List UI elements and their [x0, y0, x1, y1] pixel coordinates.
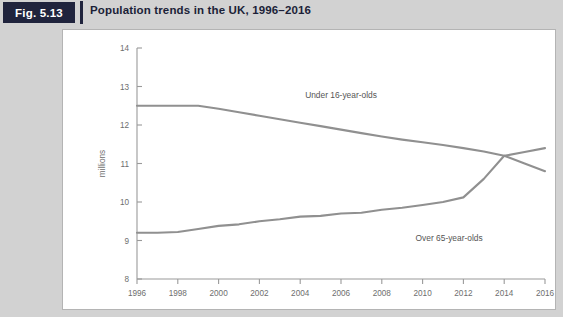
x-axis-tick-label: 2012 — [454, 289, 473, 298]
chart-series-group — [137, 106, 545, 233]
figure-header: Fig. 5.13 Population trends in the UK, 1… — [0, 0, 563, 26]
series-line — [137, 106, 545, 171]
x-axis-tick-label: 1998 — [169, 289, 188, 298]
x-axis-tick-label: 2014 — [495, 289, 514, 298]
x-axis-tick-label: 2010 — [413, 289, 432, 298]
page-title: Population trends in the UK, 1996–2016 — [90, 4, 311, 16]
x-axis-tick-label: 2002 — [250, 289, 269, 298]
y-axis-tick-label: 12 — [120, 121, 130, 130]
y-axis-title: millions — [98, 150, 107, 177]
y-axis-tick-label: 10 — [120, 198, 130, 207]
y-axis-tick-label: 14 — [120, 44, 130, 53]
series-line — [137, 148, 545, 233]
chart-panel: 891011121314millions 1996199820002002200… — [62, 29, 556, 310]
x-axis: 1996199820002002200420062008201020122014… — [128, 279, 555, 298]
x-axis-tick-label: 2004 — [291, 289, 310, 298]
y-axis-tick-label: 11 — [121, 160, 130, 169]
title-divider-rule — [80, 1, 83, 24]
line-chart: 891011121314millions 1996199820002002200… — [63, 30, 555, 309]
x-axis-tick-label: 1996 — [128, 289, 147, 298]
y-axis: 891011121314millions — [98, 44, 142, 284]
y-axis-tick-label: 9 — [124, 237, 129, 246]
y-axis-tick-label: 8 — [124, 275, 129, 284]
x-axis-tick-label: 2000 — [209, 289, 228, 298]
x-axis-tick-label: 2016 — [536, 289, 555, 298]
series-annotation-label: Over 65-year-olds — [416, 233, 483, 243]
chart-annotations: Under 16-year-oldsOver 65-year-olds — [305, 90, 482, 242]
x-axis-tick-label: 2008 — [373, 289, 392, 298]
y-axis-tick-label: 13 — [120, 83, 130, 92]
x-axis-tick-label: 2006 — [332, 289, 351, 298]
figure-number-badge: Fig. 5.13 — [3, 2, 75, 23]
series-annotation-label: Under 16-year-olds — [305, 90, 377, 100]
